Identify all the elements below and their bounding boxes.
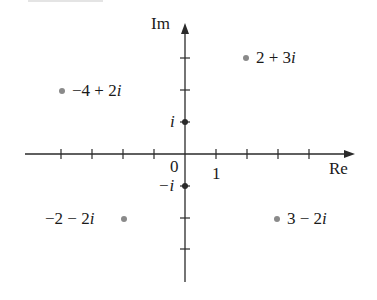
point-label-3-minus-2i: 3 − 2i xyxy=(287,210,327,228)
x-unit-label: 1 xyxy=(212,165,221,183)
complex-plane xyxy=(0,0,377,300)
imaginary-axis-arrow-icon xyxy=(181,23,189,34)
point-neg-i xyxy=(182,183,188,189)
point-label-neg2-minus-2i: −2 − 2i xyxy=(45,210,94,228)
point-i xyxy=(182,119,188,125)
point-3-minus-2i xyxy=(274,216,280,222)
real-axis-arrow-icon xyxy=(344,150,355,158)
point-label-neg4-plus-2i: −4 + 2i xyxy=(72,82,121,100)
point-2-plus-3i xyxy=(243,55,249,61)
imaginary-axis-label: Im xyxy=(151,15,170,33)
real-axis-label: Re xyxy=(329,160,348,178)
neg-i-label: −i xyxy=(158,177,174,195)
point-label-2-plus-3i: 2 + 3i xyxy=(256,49,296,67)
point-neg2-minus-2i xyxy=(121,216,127,222)
origin-label: 0 xyxy=(170,158,179,176)
point-neg4-plus-2i xyxy=(59,88,65,94)
i-label: i xyxy=(170,113,175,131)
